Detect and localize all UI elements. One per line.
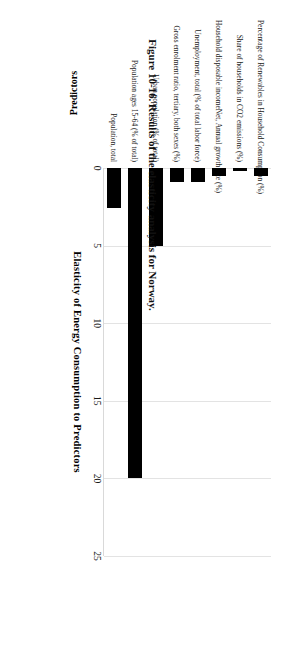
axis-tick-label: 15 [91,396,103,406]
gridline [104,556,271,557]
figure-caption: Figure 10-16. Results of the elasticity … [3,25,303,325]
axis-tick-label: 25 [91,551,103,561]
axis-tick-label: 20 [91,474,103,484]
figure-caption-text: Figure 10-16. Results of the elasticity … [147,39,159,311]
figure-page: Percentage of Renewables in Household Co… [0,0,307,650]
